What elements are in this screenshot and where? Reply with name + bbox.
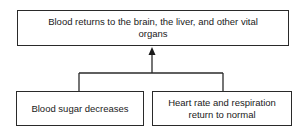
left-node-label: Blood sugar decreases <box>31 103 128 115</box>
right-node-box: Heart rate and respiration return to nor… <box>152 91 292 126</box>
top-node-label: Blood returns to the brain, the liver, a… <box>48 16 258 40</box>
arrow-up-icon <box>149 47 156 55</box>
right-node-label: Heart rate and respiration return to nor… <box>159 97 285 121</box>
top-node-box: Blood returns to the brain, the liver, a… <box>17 10 289 46</box>
left-node-box: Blood sugar decreases <box>16 91 144 126</box>
